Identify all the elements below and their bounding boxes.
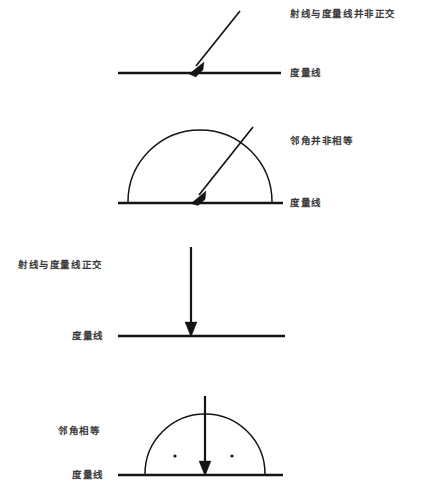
panel-3-baseline-label: 度量线: [72, 330, 104, 341]
panel-2-note-label: 邻角并非相等: [289, 135, 354, 146]
panel-4-baseline-label: 度量线: [72, 469, 104, 480]
panel-3: 射线与度量线正交 度量线: [17, 247, 285, 341]
panel-1-ray: [196, 11, 240, 66]
panel-2: 邻角并非相等 度量线: [118, 127, 354, 208]
panel-4-note-label: 邻角相等: [57, 425, 100, 436]
geometry-figure: 射线与度量线并非正交 度量线 邻角并非相等 度量线 射线与度量线正交 度量线: [0, 0, 421, 493]
diagram-canvas: 射线与度量线并非正交 度量线 邻角并非相等 度量线 射线与度量线正交 度量线: [0, 0, 421, 493]
panel-4: 邻角相等 度量线: [57, 396, 283, 480]
panel-3-note-label: 射线与度量线正交: [17, 259, 103, 270]
panel-2-semicircle-arc: [128, 130, 272, 202]
panel-4-angle-dot-right: [230, 454, 233, 457]
panel-2-ray: [199, 127, 253, 195]
panel-1: 射线与度量线并非正交 度量线: [118, 8, 396, 78]
panel-2-baseline-label: 度量线: [290, 197, 322, 208]
panel-1-note-label: 射线与度量线并非正交: [289, 8, 396, 19]
panel-4-angle-dot-left: [173, 454, 176, 457]
panel-1-baseline-label: 度量线: [290, 67, 322, 78]
